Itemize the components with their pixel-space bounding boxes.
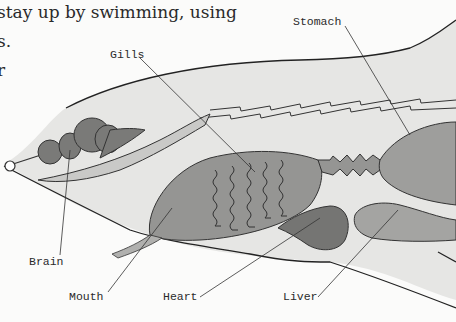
label-brain: Brain <box>29 256 64 268</box>
label-liver: Liver <box>283 291 318 303</box>
shark-anatomy-diagram <box>0 0 456 322</box>
label-gills: Gills <box>110 49 145 61</box>
label-mouth: Mouth <box>69 291 104 303</box>
label-heart: Heart <box>163 291 198 303</box>
label-stomach: Stomach <box>293 16 341 28</box>
nostril-bulb <box>5 161 15 171</box>
